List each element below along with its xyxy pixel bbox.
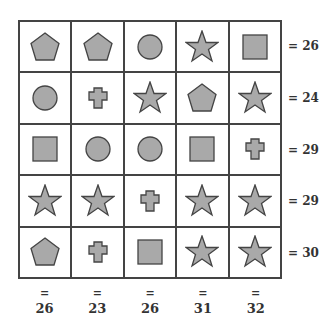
grid-cell: [124, 21, 176, 72]
puzzle-grid: [18, 20, 282, 279]
grid-cell: [229, 72, 281, 123]
grid-cell: [124, 175, 176, 226]
grid-cell: [176, 124, 228, 175]
grid-cell: [124, 72, 176, 123]
equals-sign: =: [71, 286, 124, 301]
pentagon-icon: [185, 81, 219, 115]
cross-icon: [238, 132, 272, 166]
star-icon: [238, 81, 272, 115]
grid-cell: [71, 227, 123, 278]
row-sum: = 29: [288, 194, 319, 208]
grid-cell: [19, 21, 71, 72]
grid-cell: [176, 227, 228, 278]
row-sum: = 29: [288, 143, 319, 157]
pentagon-icon: [28, 235, 62, 269]
equals-sign: =: [229, 286, 282, 301]
grid-cell: [19, 175, 71, 226]
row-sum: = 24: [288, 91, 319, 105]
column-sum-value: 26: [141, 301, 159, 316]
grid-cell: [124, 124, 176, 175]
star-icon: [28, 184, 62, 218]
star-icon: [185, 184, 219, 218]
star-icon: [238, 184, 272, 218]
grid-cell: [229, 227, 281, 278]
grid-cell: [229, 175, 281, 226]
star-icon: [81, 184, 115, 218]
grid-cell: [71, 175, 123, 226]
equals-sign: =: [18, 286, 71, 301]
grid-cell: [71, 124, 123, 175]
grid-cell: [19, 227, 71, 278]
grid-cell: [229, 124, 281, 175]
column-sum-value: 26: [35, 301, 53, 316]
grid-cell: [124, 227, 176, 278]
row-sum: = 30: [288, 246, 319, 260]
column-sum: =31: [176, 286, 229, 316]
grid-cell: [71, 21, 123, 72]
square-icon: [133, 235, 167, 269]
star-icon: [185, 30, 219, 64]
circle-icon: [133, 132, 167, 166]
cross-icon: [81, 235, 115, 269]
square-icon: [185, 132, 219, 166]
circle-icon: [28, 81, 62, 115]
grid-cell: [176, 175, 228, 226]
grid-cell: [176, 72, 228, 123]
cross-icon: [133, 184, 167, 218]
pentagon-icon: [81, 30, 115, 64]
column-sum: =23: [71, 286, 124, 316]
column-sum-value: 32: [247, 301, 265, 316]
column-sum: =26: [124, 286, 177, 316]
column-sum-value: 23: [88, 301, 106, 316]
column-sum-value: 31: [194, 301, 212, 316]
pentagon-icon: [28, 30, 62, 64]
row-sum: = 26: [288, 39, 319, 53]
grid-cell: [176, 21, 228, 72]
grid-cell: [19, 72, 71, 123]
square-icon: [238, 30, 272, 64]
equals-sign: =: [176, 286, 229, 301]
column-sum: =26: [18, 286, 71, 316]
column-sum: =32: [229, 286, 282, 316]
cross-icon: [81, 81, 115, 115]
grid-cell: [71, 72, 123, 123]
circle-icon: [133, 30, 167, 64]
star-icon: [133, 81, 167, 115]
equals-sign: =: [124, 286, 177, 301]
star-icon: [238, 235, 272, 269]
grid-cell: [229, 21, 281, 72]
circle-icon: [81, 132, 115, 166]
grid-cell: [19, 124, 71, 175]
star-icon: [185, 235, 219, 269]
square-icon: [28, 132, 62, 166]
